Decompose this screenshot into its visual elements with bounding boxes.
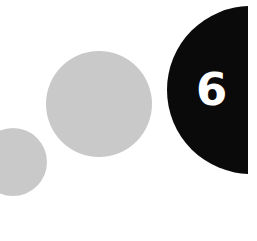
chapter-number: 6 (196, 66, 222, 114)
chapter-number-graphic: 6 (0, 0, 257, 241)
large-circle-clip (0, 0, 248, 241)
